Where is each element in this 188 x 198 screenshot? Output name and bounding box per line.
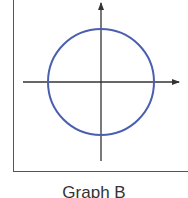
graph-plot xyxy=(0,0,188,198)
graph-figure: Graph B xyxy=(0,0,188,198)
graph-caption: Graph B xyxy=(0,183,188,198)
